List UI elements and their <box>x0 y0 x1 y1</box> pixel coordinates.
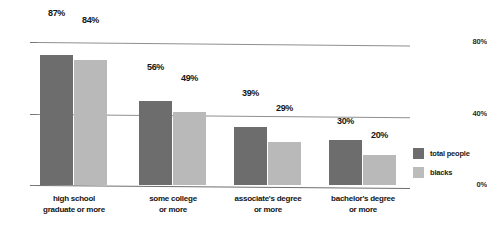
category-label-line-1: high school <box>53 194 95 203</box>
legend-swatch-icon-blacks <box>413 167 424 178</box>
plot-area: 80% 40% 0% 87% 84% high school graduate … <box>0 0 487 230</box>
tick-mark-40 <box>30 114 37 115</box>
bar-chart: 80% 40% 0% 87% 84% high school graduate … <box>0 0 487 230</box>
category-label-line-1: bachelor's degree <box>331 194 395 203</box>
legend-swatch-icon-total-people <box>413 148 424 159</box>
axis-baseline <box>36 185 410 189</box>
chart-legend: total people blacks <box>413 148 470 186</box>
y-axis-label-40: 40% <box>461 110 487 118</box>
tick-mark-80 <box>30 42 37 43</box>
category-label-line-2: or more <box>159 205 187 214</box>
bar-value-total-people-high-school: 87% <box>40 9 73 18</box>
bar-value-blacks-associates-degree: 29% <box>268 104 301 113</box>
bar-blacks-associates-degree <box>268 142 301 185</box>
bar-total-people-bachelors-degree <box>329 140 362 185</box>
bar-blacks-bachelors-degree <box>363 155 396 185</box>
bar-value-total-people-some-college: 56% <box>139 63 172 72</box>
bar-value-blacks-some-college: 49% <box>173 74 206 83</box>
y-axis-label-80: 80% <box>461 38 487 46</box>
legend-label-blacks: blacks <box>430 169 452 177</box>
bar-value-total-people-bachelors-degree: 30% <box>329 117 362 126</box>
bar-blacks-some-college <box>173 112 206 185</box>
category-label-line-1: associate's degree <box>235 194 302 203</box>
category-label-line-2: graduate or more <box>43 205 105 214</box>
bar-blacks-high-school <box>74 60 107 185</box>
category-label-line-2: or more <box>254 205 282 214</box>
bar-value-blacks-bachelors-degree: 20% <box>363 131 396 140</box>
tick-mark-0 <box>30 185 37 186</box>
category-label-line-2: or more <box>349 205 377 214</box>
category-label-bachelors-degree: bachelor's degree or more <box>302 193 424 215</box>
bar-total-people-high-school <box>40 55 73 185</box>
bar-total-people-associates-degree <box>234 127 267 185</box>
legend-item-blacks: blacks <box>413 167 470 178</box>
bar-value-total-people-associates-degree: 39% <box>234 89 267 98</box>
legend-label-total-people: total people <box>430 150 470 158</box>
bar-total-people-some-college <box>139 101 172 185</box>
category-label-line-1: some college <box>149 194 197 203</box>
gridline-80 <box>36 42 410 47</box>
legend-item-total-people: total people <box>413 148 470 159</box>
bar-value-blacks-high-school: 84% <box>74 16 107 25</box>
